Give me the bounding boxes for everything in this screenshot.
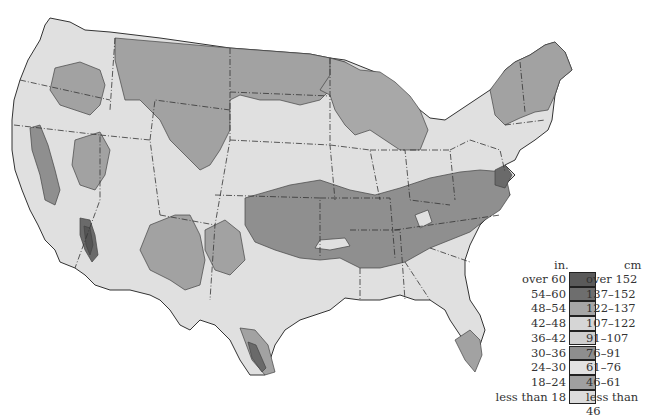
- legend-cm-7: 46–61: [586, 375, 651, 390]
- legend-cm-3: 107–122: [586, 316, 651, 331]
- legend-in-5: 30–36: [476, 346, 566, 361]
- legend-cm-8: less than 46: [586, 390, 651, 405]
- legend-in-2: 48–54: [476, 301, 566, 316]
- legend-header-inches: in.: [554, 258, 569, 272]
- legend-in-4: 36–42: [476, 331, 566, 346]
- zone-chesapeake: [495, 165, 512, 188]
- legend: in. cm over 60 over 152 54–60 137–152 48…: [476, 258, 651, 410]
- legend-in-6: 24–30: [476, 360, 566, 375]
- legend-cm-0: over 152: [586, 272, 651, 287]
- legend-in-3: 42–48: [476, 316, 566, 331]
- legend-in-0: over 60: [476, 272, 566, 287]
- legend-in-8: less than 18: [476, 390, 566, 405]
- legend-cm-1: 137–152: [586, 287, 651, 302]
- legend-cm-2: 122–137: [586, 301, 651, 316]
- legend-header-cm: cm: [624, 258, 641, 272]
- zone-northeast: [490, 42, 572, 125]
- legend-in-7: 18–24: [476, 375, 566, 390]
- legend-in-1: 54–60: [476, 287, 566, 302]
- legend-cm-4: 91–107: [586, 331, 651, 346]
- legend-cm-5: 76–91: [586, 346, 651, 361]
- legend-cm-6: 61–76: [586, 360, 651, 375]
